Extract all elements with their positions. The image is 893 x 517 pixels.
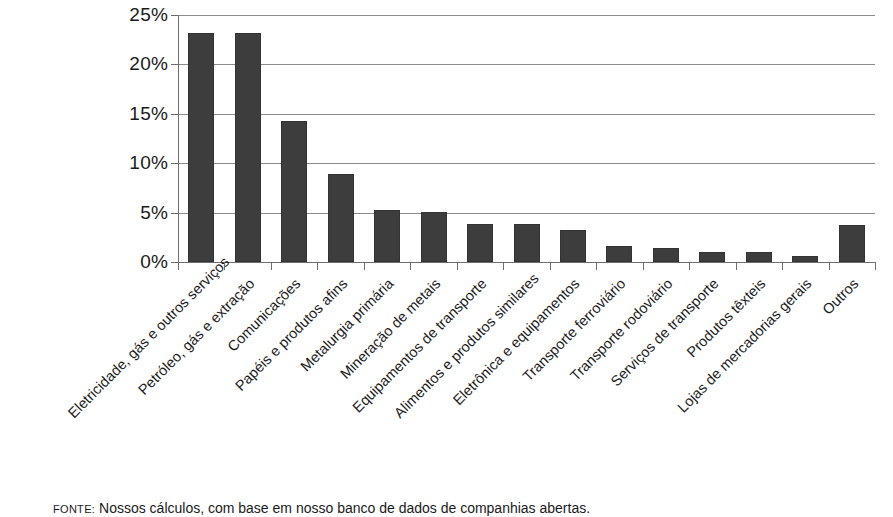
x-tick-mark xyxy=(643,262,644,270)
chart-footnote: FONTE: Nossos cálculos, com base em noss… xyxy=(53,500,590,516)
bar-chart-figure: 0%5%10%15%20%25% Eletricidade, gás e out… xyxy=(0,0,893,517)
y-tick-mark xyxy=(171,15,179,16)
footnote-text: Nossos cálculos, com base em nosso banco… xyxy=(95,500,590,516)
x-tick-mark xyxy=(829,262,830,270)
x-tick-mark xyxy=(736,262,737,270)
y-tick-mark xyxy=(171,114,179,115)
x-tick-mark xyxy=(596,262,597,270)
y-tick-mark xyxy=(171,163,179,164)
x-tick-mark xyxy=(689,262,690,270)
footnote-source-label: FONTE: xyxy=(53,503,95,515)
x-tick-mark xyxy=(550,262,551,270)
x-tick-mark xyxy=(364,262,365,270)
x-tick-mark xyxy=(875,262,876,270)
x-tick-mark xyxy=(224,262,225,270)
x-tick-mark xyxy=(178,262,179,270)
x-tick-mark xyxy=(457,262,458,270)
x-tick-mark xyxy=(317,262,318,270)
y-tick-mark xyxy=(171,64,179,65)
x-tick-mark xyxy=(782,262,783,270)
x-tick-mark xyxy=(503,262,504,270)
y-tick-mark xyxy=(171,213,179,214)
x-tick-mark xyxy=(271,262,272,270)
x-axis-category-labels: Eletricidade, gás e outros serviçosPetró… xyxy=(0,0,893,517)
x-tick-mark xyxy=(410,262,411,270)
